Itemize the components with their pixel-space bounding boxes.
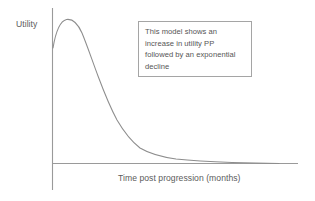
annotation-textbox: This model shows an increase in utility … — [138, 21, 252, 77]
annotation-text: This model shows an increase in utility … — [145, 26, 245, 72]
chart-figure: Utility Time post progression (months) T… — [0, 0, 315, 201]
x-axis-label: Time post progression (months) — [118, 173, 241, 184]
y-axis-label: Utility — [16, 19, 37, 30]
